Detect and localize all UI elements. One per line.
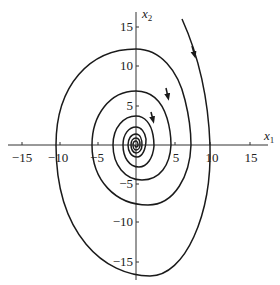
svg-text:15: 15 bbox=[120, 19, 133, 34]
phase-portrait-svg: −15 −10 −5 5 10 15 15 10 5 −5 −10 −15 x2… bbox=[0, 0, 280, 285]
svg-text:15: 15 bbox=[245, 150, 258, 165]
svg-text:−15: −15 bbox=[113, 254, 133, 269]
x2-axis-label: x2 bbox=[141, 6, 152, 23]
svg-text:−10: −10 bbox=[113, 214, 133, 229]
svg-text:−10: −10 bbox=[48, 150, 68, 165]
svg-text:5: 5 bbox=[127, 98, 134, 113]
svg-text:10: 10 bbox=[120, 58, 133, 73]
direction-arrows bbox=[151, 46, 195, 120]
arrow-icon bbox=[166, 88, 168, 97]
trajectory-outer bbox=[56, 19, 210, 276]
arrow-icon bbox=[151, 112, 153, 120]
svg-text:−15: −15 bbox=[12, 150, 32, 165]
x1-axis-label: x1 bbox=[263, 128, 274, 145]
trajectories bbox=[56, 19, 210, 276]
svg-text:5: 5 bbox=[173, 150, 180, 165]
phase-portrait-figure: −15 −10 −5 5 10 15 15 10 5 −5 −10 −15 x2… bbox=[0, 0, 280, 285]
svg-text:10: 10 bbox=[206, 150, 219, 165]
